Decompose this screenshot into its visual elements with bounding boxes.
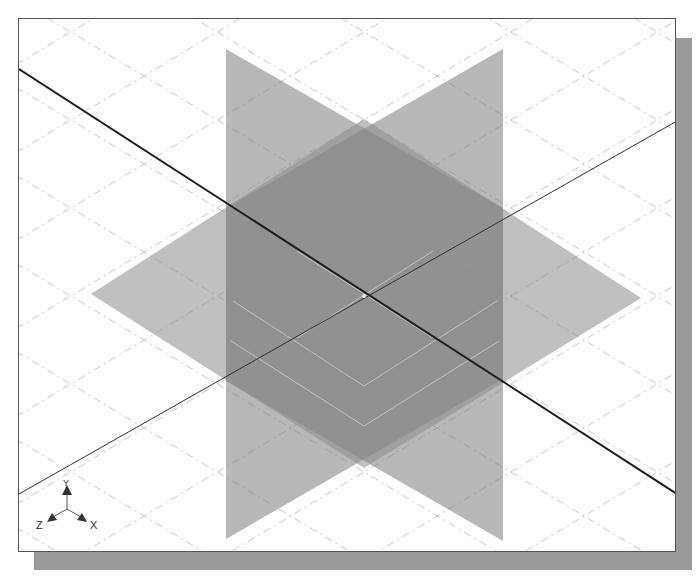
- x-arrow-icon: [77, 513, 87, 522]
- origin-point: [362, 294, 366, 298]
- z-arrow-icon: [47, 513, 57, 522]
- triad-y-label: Y: [63, 478, 69, 488]
- triad-x-label: X: [90, 519, 97, 531]
- coordinate-triad: [47, 485, 87, 522]
- triad-z-label: Z: [36, 519, 43, 531]
- graphics-viewport[interactable]: Y Z X: [18, 18, 676, 552]
- scene-canvas[interactable]: [19, 19, 676, 552]
